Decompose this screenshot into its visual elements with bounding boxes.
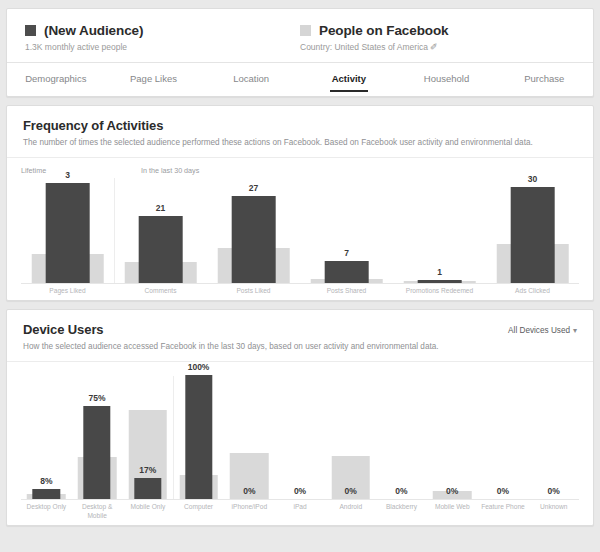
bar-value-label: 0% [345, 486, 357, 496]
bar-value-label: 27 [249, 183, 258, 193]
device-category-labels: Desktop OnlyDesktop & MobileMobile OnlyC… [21, 500, 579, 521]
tab-household[interactable]: Household [398, 63, 496, 96]
category-label: Mobile Only [122, 503, 173, 521]
tab-label: Page Likes [130, 73, 177, 84]
audience-bar [417, 280, 462, 283]
frequency-of-activities-card: Frequency of Activities The number of ti… [6, 105, 594, 301]
category-label: Android [325, 503, 376, 521]
bar-group[interactable]: 1 [393, 178, 486, 283]
device-header: Device Users How the selected audience a… [7, 310, 593, 361]
bar-value-label: 0% [294, 486, 306, 496]
bar-group[interactable]: 0% [325, 376, 376, 499]
category-label: Desktop Only [21, 503, 72, 521]
bar-value-label: 7 [344, 248, 349, 258]
frequency-category-labels: Pages LikedCommentsPosts LikedPosts Shar… [21, 284, 579, 296]
category-label: Comments [114, 287, 207, 296]
device-users-card: Device Users How the selected audience a… [6, 309, 594, 526]
audience-bar [510, 187, 555, 283]
audience-bar [324, 261, 369, 283]
bar-group[interactable]: 0% [427, 376, 478, 499]
bar-group[interactable]: 0% [478, 376, 529, 499]
tab-activity[interactable]: Activity [300, 63, 398, 96]
category-label: Promotions Redeemed [393, 287, 486, 296]
bar-value-label: 0% [497, 486, 509, 496]
tab-location[interactable]: Location [202, 63, 300, 96]
device-plot: 8%75%17%100%0%0%0%0%0%0%0% [21, 376, 579, 500]
audience-bar [185, 375, 212, 499]
frequency-plot: 321277130 [21, 178, 579, 284]
bar-group[interactable]: 21 [114, 178, 207, 283]
category-label: iPad [275, 503, 326, 521]
tab-label: Location [233, 73, 269, 84]
category-label: Ads Clicked [486, 287, 579, 296]
chevron-down-icon: ▾ [573, 326, 577, 335]
frequency-description: The number of times the selected audienc… [23, 138, 577, 147]
audience-subtitle: 1.3K monthly active people [25, 42, 300, 52]
category-label: Unknown [528, 503, 579, 521]
bar-value-label: 21 [156, 203, 165, 213]
device-description: How the selected audience accessed Faceb… [23, 342, 577, 351]
tab-label: Household [424, 73, 469, 84]
bar-value-label: 0% [243, 486, 255, 496]
bar-group[interactable]: 27 [207, 178, 300, 283]
audience-bar [138, 216, 183, 283]
category-label: Posts Liked [207, 287, 300, 296]
bar-value-label: 75% [89, 393, 106, 403]
legend-comparison: People on Facebook Country: United State… [300, 23, 575, 52]
category-label: Pages Liked [21, 287, 114, 296]
audience-swatch-icon [25, 25, 36, 36]
audience-header-card: (New Audience) 1.3K monthly active peopl… [6, 8, 594, 97]
category-label: Computer [173, 503, 224, 521]
category-label: Posts Shared [300, 287, 393, 296]
tab-purchase[interactable]: Purchase [495, 63, 593, 96]
tab-label: Demographics [25, 73, 86, 84]
audience-bar [45, 183, 90, 283]
bar-group[interactable]: 17% [122, 376, 173, 499]
bar-value-label: 3 [65, 170, 70, 180]
bar-group[interactable]: 0% [224, 376, 275, 499]
category-label: Feature Phone [478, 503, 529, 521]
bar-group[interactable]: 0% [275, 376, 326, 499]
legend-audience: (New Audience) 1.3K monthly active peopl… [25, 23, 300, 52]
bar-group[interactable]: 100% [173, 376, 224, 499]
bar-group[interactable]: 30 [486, 178, 579, 283]
bar-group[interactable]: 75% [72, 376, 123, 499]
bar-value-label: 30 [528, 174, 537, 184]
comparison-subtitle: Country: United States of America ✐ [300, 42, 575, 52]
bar-group[interactable]: 8% [21, 376, 72, 499]
device-chart: 8%75%17%100%0%0%0%0%0%0%0% Desktop OnlyD… [21, 376, 579, 521]
device-chart-wrap: 8%75%17%100%0%0%0%0%0%0%0% Desktop OnlyD… [7, 361, 593, 525]
audience-name: (New Audience) [44, 23, 143, 38]
bar-value-label: 0% [395, 486, 407, 496]
device-title: Device Users [23, 322, 577, 337]
bar-group[interactable]: 7 [300, 178, 393, 283]
tab-demographics[interactable]: Demographics [7, 63, 105, 96]
frequency-period-labels: LifetimeIn the last 30 days [21, 166, 579, 178]
audience-bar [83, 406, 110, 499]
bar-value-label: 8% [40, 476, 52, 486]
legend-audience-title: (New Audience) [25, 23, 300, 38]
bar-value-label: 100% [188, 362, 210, 372]
category-label: Blackberry [376, 503, 427, 521]
bar-value-label: 0% [548, 486, 560, 496]
comparison-swatch-icon [300, 25, 311, 36]
tab-label: Activity [332, 73, 366, 84]
audience-bar [134, 478, 161, 499]
period-label: In the last 30 days [141, 166, 199, 175]
all-devices-used-label: All Devices Used [508, 326, 570, 335]
category-label: Desktop & Mobile [72, 503, 123, 521]
bar-group[interactable]: 3 [21, 178, 114, 283]
tab-bar: DemographicsPage LikesLocationActivityHo… [7, 62, 593, 96]
all-devices-used-dropdown[interactable]: All Devices Used▾ [508, 325, 577, 335]
bar-group[interactable]: 0% [528, 376, 579, 499]
frequency-chart-wrap: LifetimeIn the last 30 days 321277130 Pa… [7, 157, 593, 300]
bar-value-label: 17% [139, 465, 156, 475]
bar-value-label: 1 [437, 267, 442, 277]
bar-group[interactable]: 0% [376, 376, 427, 499]
legend-comparison-title: People on Facebook [300, 23, 575, 38]
comparison-name: People on Facebook [319, 23, 448, 38]
frequency-title: Frequency of Activities [23, 118, 577, 133]
analytics-page: (New Audience) 1.3K monthly active peopl… [0, 0, 600, 552]
tab-label: Purchase [524, 73, 564, 84]
tab-page-likes[interactable]: Page Likes [105, 63, 203, 96]
